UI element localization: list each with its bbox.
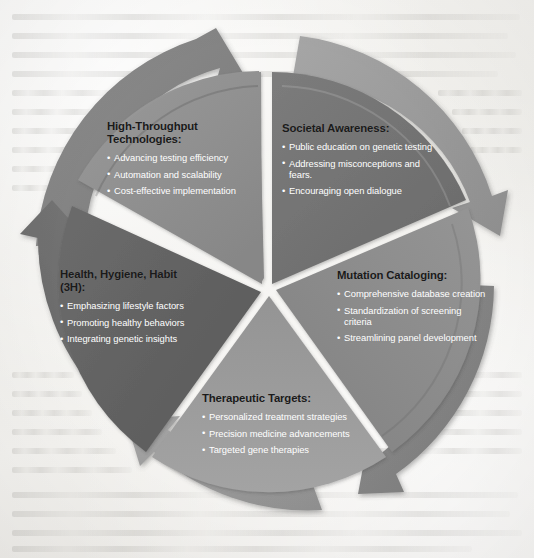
list-item: Promoting healthy behaviors (60, 317, 212, 328)
segment-title-line-2: Technologies: (107, 133, 181, 145)
segment-title: Mutation Cataloging: (337, 269, 487, 282)
list-item: Public education on genetic testing (282, 141, 434, 152)
segment-bullet-list: Comprehensive database creation Standard… (337, 288, 487, 344)
segment-label-health-hygiene-habit-3h: Health, Hygiene, Habit(3H): Emphasizing … (60, 268, 212, 345)
list-item: Addressing misconceptions and fears. (282, 158, 434, 181)
list-item: Personalized treatment strategies (202, 411, 350, 422)
list-item: Streamlining panel development (337, 332, 487, 343)
segment-title-line-2: (3H): (60, 281, 85, 293)
segment-label-mutation-cataloging: Mutation Cataloging: Comprehensive datab… (337, 269, 487, 344)
list-item: Encouraging open dialogue (282, 185, 434, 196)
segment-bullet-list: Emphasizing lifestyle factors Promoting … (60, 300, 212, 344)
list-item: Automation and scalability (107, 169, 257, 180)
cycle-diagram: High-ThroughputTechnologies: Advancing t… (0, 0, 534, 558)
list-item: Targeted gene therapies (202, 444, 350, 455)
segment-title: Health, Hygiene, Habit(3H): (60, 268, 212, 294)
segment-bullet-list: Public education on genetic testing Addr… (282, 141, 434, 197)
segment-title-line-1: High-Throughput (107, 120, 198, 132)
segment-bullet-list: Advancing testing efficiency Automation … (107, 152, 257, 196)
page-canvas: High-ThroughputTechnologies: Advancing t… (0, 0, 534, 558)
segment-label-therapeutic-targets: Therapeutic Targets: Personalized treatm… (202, 392, 350, 455)
segment-bullet-list: Personalized treatment strategies Precis… (202, 411, 350, 455)
list-item: Emphasizing lifestyle factors (60, 300, 212, 311)
list-item: Integrating genetic insights (60, 333, 212, 344)
list-item: Standardization of screening criteria (337, 305, 487, 328)
segment-label-high-throughput-technologies: High-ThroughputTechnologies: Advancing t… (107, 120, 257, 197)
segment-title: High-ThroughputTechnologies: (107, 120, 257, 146)
segment-title: Societal Awareness: (282, 122, 434, 135)
list-item: Advancing testing efficiency (107, 152, 257, 163)
list-item: Cost-effective implementation (107, 185, 257, 196)
segment-label-societal-awareness: Societal Awareness: Public education on … (282, 122, 434, 197)
list-item: Comprehensive database creation (337, 288, 487, 299)
segment-title: Therapeutic Targets: (202, 392, 350, 405)
segment-title-line-1: Health, Hygiene, Habit (60, 268, 177, 280)
list-item: Precision medicine advancements (202, 428, 350, 439)
